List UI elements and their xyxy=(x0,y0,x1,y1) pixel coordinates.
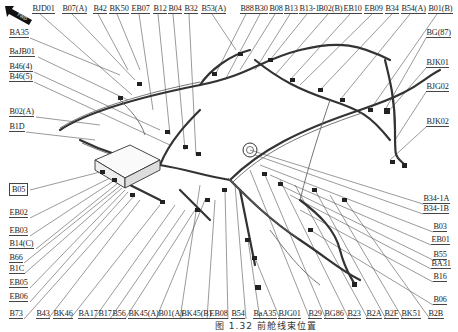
connector-label-b66: B66 xyxy=(9,253,23,263)
connector-label-b34-1b: B34-1B xyxy=(423,204,449,214)
connector-label-eb02: EB02 xyxy=(9,208,28,218)
connector-label-b2f: B2F xyxy=(384,309,399,319)
connector-label-b34-1a: B34-1A xyxy=(423,194,450,204)
connector-label-b17: B17 xyxy=(98,309,112,319)
figure-caption: 图 1.32 前舱线束位置 xyxy=(215,319,317,332)
connector-label-b54-a: B54(A) xyxy=(401,4,426,14)
connector-label-b46-5: B46(5) xyxy=(9,72,33,82)
connector-label-b13-1: B13-1 xyxy=(299,4,320,14)
connector-label-b46-4: B46(4) xyxy=(9,62,33,72)
connector-label-ba17: BA17 xyxy=(78,309,98,319)
connector-label-eb06: EB06 xyxy=(9,292,28,302)
connector-label-eb09: EB09 xyxy=(364,4,383,14)
connector-label-bjd01: BJD01 xyxy=(32,4,55,14)
connector-label-b53-a: B53(A) xyxy=(201,4,226,14)
connector-label-bk45-a: BK45(A) xyxy=(128,309,159,319)
connector-label-b01-a: B01(A) xyxy=(158,309,183,319)
connector-label-b23: B23 xyxy=(347,309,361,319)
connector-label-b56: B56 xyxy=(112,309,126,319)
connector-label-b88: B88 xyxy=(240,4,254,14)
connector-label-b06: B06 xyxy=(433,295,447,305)
connector-label-bk51: BK51 xyxy=(401,309,421,319)
connector-label-b03: B03 xyxy=(433,222,447,232)
connector-label-eb03: EB03 xyxy=(9,226,28,236)
connector-label-bg-87: BG(87) xyxy=(426,28,451,38)
leader-lines xyxy=(24,14,437,319)
connector-label-b2b: B2B xyxy=(428,309,444,319)
connector-label-b08: B08 xyxy=(269,4,283,14)
connector-label-b14-c: B14(C) xyxy=(9,239,34,249)
connector-label-b05: B05 xyxy=(9,183,28,196)
connector-label-ba35: BA35 xyxy=(9,28,29,38)
connector-label-b42: B42 xyxy=(93,4,107,14)
connector-label-b12: B12 xyxy=(153,4,167,14)
connector-label-eb08: EB08 xyxy=(209,309,228,319)
connector-label-b30: B30 xyxy=(254,4,268,14)
connector-label-bk45-b: BK45(B) xyxy=(181,309,212,319)
connector-label-b32: B32 xyxy=(184,4,198,14)
connector-label-b54: B54 xyxy=(231,309,245,319)
connector-label-baa35: BaA35 xyxy=(253,309,277,319)
connector-label-b13: B13 xyxy=(284,4,298,14)
connector-label-bk50: BK50 xyxy=(109,4,129,14)
connector-label-b1d: B1D xyxy=(9,122,25,132)
connector-label-eb10: EB10 xyxy=(343,4,362,14)
connector-label-b73: B73 xyxy=(9,309,23,319)
connector-label-b2a: B2A xyxy=(366,309,382,319)
connector-label-bajb01: BaJB01 xyxy=(9,47,35,57)
connector-label-eb07: EB07 xyxy=(131,4,150,14)
connector-label-bg86: BG86 xyxy=(324,309,344,319)
connector-label-b29: B29 xyxy=(308,309,322,319)
connector-label-b07-a: B07(A) xyxy=(62,4,87,14)
connector-label-bjk02: BJK02 xyxy=(426,117,449,127)
harness-diagram: FWD BJD01B07(A)B42BK50EB07B12B04B32B53(A… xyxy=(0,0,458,332)
connector-label-b43: B43 xyxy=(36,309,50,319)
connector-label-b1c: B1C xyxy=(9,264,25,274)
connector-label-b02-a: B02(A) xyxy=(9,107,34,117)
connector-label-b02-b: B02(B) xyxy=(318,4,343,14)
connector-label-bjk01: BJK01 xyxy=(426,58,449,68)
connector-label-bk46: BK46 xyxy=(53,309,73,319)
connector-label-b34: B34 xyxy=(385,4,399,14)
connector-label-b16: B16 xyxy=(433,272,447,282)
connector-label-ba31: BA31 xyxy=(431,259,451,269)
forward-arrow-icon: FWD xyxy=(4,4,34,30)
harness-drawing xyxy=(0,0,458,332)
connector-label-bjg02: BJG02 xyxy=(426,82,449,92)
connector-label-bjg01: BJG01 xyxy=(278,309,301,319)
connector-label-b01-b: B01(B) xyxy=(428,4,453,14)
connector-label-eb05: EB05 xyxy=(9,278,28,288)
connector-label-eb01: EB01 xyxy=(431,235,450,245)
connector-label-b04: B04 xyxy=(168,4,182,14)
